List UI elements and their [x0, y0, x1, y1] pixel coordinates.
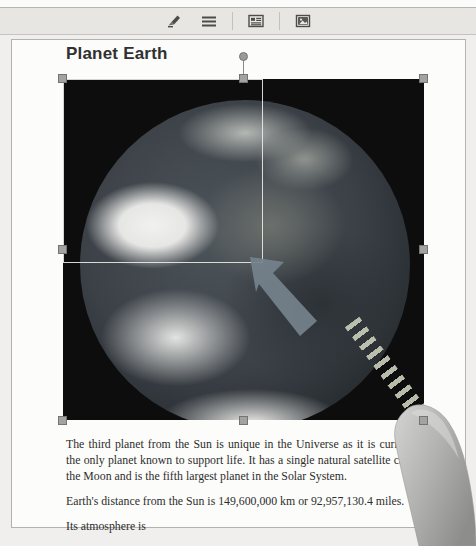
- body-paragraph: Its atmosphere is: [66, 518, 422, 534]
- document-body: The third planet from the Sun is unique …: [66, 436, 422, 543]
- rotate-handle-stem: [243, 60, 244, 75]
- paragraph-lines-button[interactable]: [197, 10, 221, 32]
- edit-pen-button[interactable]: [162, 10, 186, 32]
- resize-handle-bottom-left[interactable]: [58, 416, 67, 425]
- lines-icon: [201, 13, 217, 29]
- resize-handle-bottom-right[interactable]: [419, 416, 428, 425]
- resize-handle-bottom-middle[interactable]: [239, 416, 248, 425]
- image-icon: [295, 13, 311, 29]
- screen-top-strip: [0, 0, 476, 7]
- body-paragraph: The third planet from the Sun is unique …: [66, 436, 422, 484]
- format-layout-button[interactable]: [244, 10, 268, 32]
- finger-pointer: [391, 399, 476, 546]
- resize-preview-outline: [63, 79, 263, 263]
- resize-handle-top-right[interactable]: [419, 74, 428, 83]
- insert-image-button[interactable]: [291, 10, 315, 32]
- resize-handle-top-left[interactable]: [58, 74, 67, 83]
- toolbar-divider: [279, 12, 280, 30]
- resize-handle-top-middle[interactable]: [239, 74, 248, 83]
- toolbar-divider: [232, 12, 233, 30]
- layout-icon: [248, 13, 264, 29]
- page-title: Planet Earth: [66, 43, 168, 65]
- toolbar: [0, 7, 476, 35]
- resize-handle-middle-right[interactable]: [419, 245, 428, 254]
- drag-direction-arrow: [248, 253, 322, 341]
- rotate-handle[interactable]: [239, 52, 248, 61]
- pen-icon: [166, 13, 182, 29]
- body-paragraph: Earth's distance from the Sun is 149,600…: [66, 493, 422, 509]
- resize-handle-middle-left[interactable]: [58, 245, 67, 254]
